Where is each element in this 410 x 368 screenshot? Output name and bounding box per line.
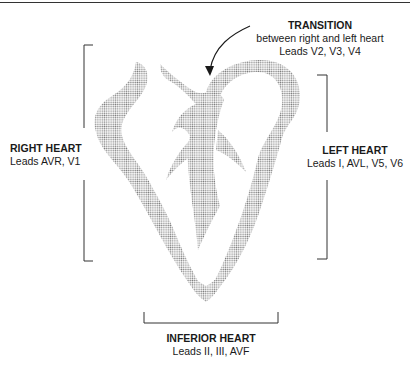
left-heart-title: LEFT HEART <box>300 144 410 157</box>
right-heart-label: RIGHT HEART Leads AVR, V1 <box>10 142 90 168</box>
transition-leads: Leads V2, V3, V4 <box>240 45 400 58</box>
right-heart-title: RIGHT HEART <box>10 142 90 155</box>
transition-title: TRANSITION <box>240 19 400 32</box>
inferior-heart-bracket <box>144 312 278 323</box>
inferior-heart-title: INFERIOR HEART <box>136 332 286 345</box>
inferior-heart-label: INFERIOR HEART Leads II, III, AVF <box>136 332 286 358</box>
arrow-head <box>205 66 214 76</box>
right-heart-leads: Leads AVR, V1 <box>10 155 90 168</box>
left-heart-label: LEFT HEART Leads I, AVL, V5, V6 <box>300 144 410 170</box>
left-heart-leads: Leads I, AVL, V5, V6 <box>300 157 410 170</box>
inferior-heart-leads: Leads II, III, AVF <box>136 345 286 358</box>
septum-right-flare <box>216 130 246 172</box>
transition-label: TRANSITION between right and left heart … <box>240 19 400 58</box>
transition-subtitle: between right and left heart <box>240 32 400 45</box>
heart-wall <box>95 60 300 302</box>
